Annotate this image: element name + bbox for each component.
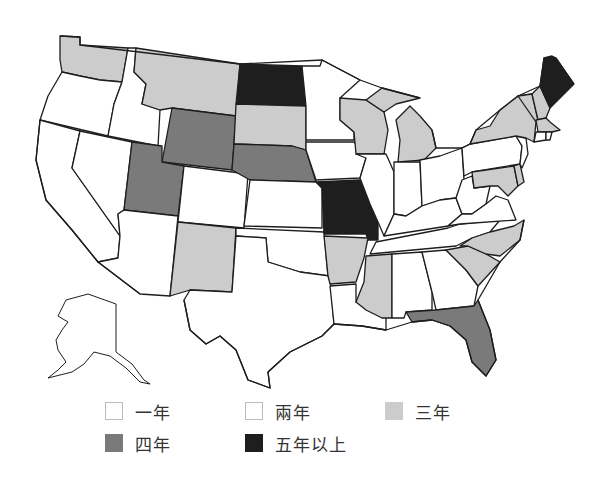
legend-item-two-years: 兩年 <box>245 400 311 422</box>
state-connecticut[interactable] <box>534 132 546 142</box>
legend-label: 一年 <box>135 399 171 424</box>
state-new-mexico[interactable] <box>170 222 236 296</box>
state-nebraska[interactable] <box>232 144 316 182</box>
state-rhode-island[interactable] <box>546 132 552 140</box>
legend-swatch-four-years <box>105 434 123 452</box>
legend-swatch-three-years <box>385 402 403 420</box>
state-kansas[interactable] <box>244 180 322 228</box>
map-legend: 一年 兩年 三年 四年 五年以上 <box>100 398 500 468</box>
legend-label: 三年 <box>415 399 451 424</box>
state-hawaii[interactable] <box>159 339 223 373</box>
legend-item-four-years: 四年 <box>105 432 171 454</box>
state-alaska[interactable] <box>48 294 150 384</box>
legend-label: 兩年 <box>275 399 311 424</box>
legend-label: 五年以上 <box>275 431 347 456</box>
state-massachusetts[interactable] <box>536 118 560 132</box>
state-wyoming[interactable] <box>162 108 236 170</box>
state-colorado[interactable] <box>178 166 248 228</box>
legend-swatch-one-year <box>105 402 123 420</box>
legend-swatch-five-plus-years <box>245 434 263 452</box>
legend-swatch-two-years <box>245 402 263 420</box>
state-south-dakota[interactable] <box>234 104 306 150</box>
state-north-dakota[interactable] <box>236 64 306 106</box>
legend-item-five-plus-years: 五年以上 <box>245 432 347 454</box>
legend-item-one-year: 一年 <box>105 400 171 422</box>
legend-label: 四年 <box>135 431 171 456</box>
state-arkansas[interactable] <box>324 236 368 284</box>
legend-item-three-years: 三年 <box>385 400 451 422</box>
